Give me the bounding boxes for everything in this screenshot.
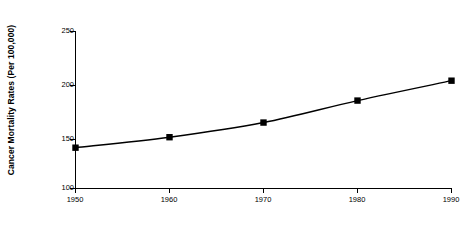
data-series-cancer-mortality <box>72 77 454 150</box>
cancer-mortality-line-chart: Cancer Mortality Rates (Per 100,000) 250… <box>0 0 466 234</box>
series-line <box>76 81 452 148</box>
data-point-1960 <box>166 134 172 140</box>
data-point-1980 <box>354 97 360 103</box>
data-point-1970 <box>260 119 266 125</box>
data-point-1950 <box>72 144 78 150</box>
series-markers <box>72 77 454 150</box>
chart-canvas <box>0 0 466 234</box>
data-point-1990 <box>448 77 454 83</box>
